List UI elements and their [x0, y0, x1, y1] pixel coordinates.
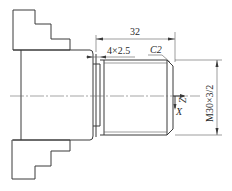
dim-undercut-arrow-right — [100, 56, 106, 59]
chamfer-label: C2 — [150, 44, 162, 55]
z-axis-label: Z — [177, 97, 188, 103]
dim-thread-label: M30×3/2 — [204, 85, 215, 122]
chuck-jaw-upper — [13, 10, 70, 50]
dim-32-label: 32 — [130, 26, 140, 37]
z-axis-arrow — [180, 94, 186, 98]
workpiece-body — [13, 50, 93, 140]
x-axis-label: X — [175, 106, 183, 117]
chuck-jaw-lower — [12, 140, 70, 179]
dim-undercut-label: 4×2.5 — [107, 45, 130, 56]
turning-drawing: 32 4×2.5 C2 M30×3/2 Z X — [0, 0, 232, 191]
dim-32-arrow-right — [168, 38, 175, 41]
dim-thread-arrow-top — [216, 60, 219, 67]
dim-32-arrow-left — [96, 38, 103, 41]
thread-section — [100, 60, 173, 135]
dim-undercut-arrow-left — [87, 56, 93, 59]
dim-thread-arrow-bottom — [216, 128, 219, 135]
chamfer-leader — [162, 55, 170, 62]
